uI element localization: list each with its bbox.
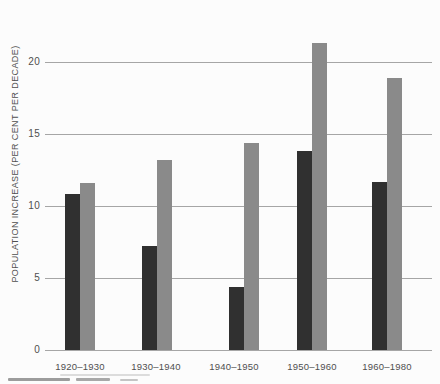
bar-dark-1940–1950	[229, 287, 244, 350]
x-tick-label-1950–1960: 1950–1960	[277, 361, 347, 372]
gridline-15	[45, 134, 432, 135]
x-tick-label-1960–1980: 1960–1980	[352, 361, 422, 372]
bar-dark-1960–1980	[372, 182, 387, 350]
gridline-20	[45, 62, 432, 63]
x-tick-label-1920–1930: 1920–1930	[45, 361, 115, 372]
y-tick-label-15: 15	[18, 128, 40, 139]
y-axis-title: POPULATION INCREASE (PER CENT PER DECADE…	[10, 45, 20, 282]
y-tick-label-5: 5	[18, 272, 40, 283]
cut-off-caption-fragment-line	[60, 374, 150, 376]
bar-dark-1920–1930	[65, 194, 80, 350]
bar-gray-1950–1960	[312, 43, 327, 350]
cut-off-caption-fragment-line	[120, 379, 138, 381]
bar-dark-1950–1960	[297, 151, 312, 350]
plot-area: POPULATION INCREASE (PER CENT PER DECADE…	[0, 0, 440, 384]
y-tick-label-0: 0	[18, 344, 40, 355]
cut-off-caption-fragment-line	[8, 378, 70, 381]
bar-gray-1930–1940	[157, 160, 172, 350]
x-tick-label-1940–1950: 1940–1950	[199, 361, 269, 372]
bar-gray-1940–1950	[244, 143, 259, 350]
bar-gray-1960–1980	[387, 78, 402, 350]
bar-dark-1930–1940	[142, 246, 157, 350]
chart-figure: POPULATION INCREASE (PER CENT PER DECADE…	[0, 0, 440, 384]
bar-gray-1920–1930	[80, 183, 95, 350]
y-tick-label-20: 20	[18, 56, 40, 67]
cut-off-caption-fragment-line	[76, 378, 110, 381]
x-tick-label-1930–1940: 1930–1940	[121, 361, 191, 372]
y-tick-label-10: 10	[18, 200, 40, 211]
